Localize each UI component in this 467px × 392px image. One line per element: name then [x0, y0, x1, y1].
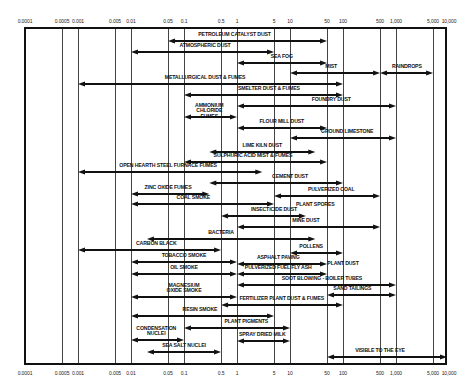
bar-label: ASPHALT PAVING	[257, 255, 300, 261]
bar-label: RESIN SMOKE	[183, 307, 218, 313]
range-arrow	[274, 193, 380, 198]
bar-label: SPRAY DRIED MILK	[239, 332, 286, 338]
bar-label: SMELTER DUST & FUMES	[238, 86, 300, 92]
particle-size-chart: 0.00010.00050.0010.0050.010.050.10.51510…	[0, 0, 467, 392]
range-arrow	[237, 282, 396, 287]
bar-label: OIL SMOKE	[170, 265, 198, 271]
bar-label: CARBON BLACK	[136, 241, 177, 247]
bar-label: PETROLEUM CATALYST DUST	[198, 32, 271, 38]
range-arrow	[237, 224, 380, 229]
range-arrow	[209, 180, 343, 185]
bar-label: AMMONIUM CHLORIDE FUMES	[188, 103, 230, 120]
bar-label: SEA SALT NUCLEI	[162, 343, 206, 349]
range-arrow	[237, 60, 327, 65]
bar-label: ZINC OXIDE FUMES	[145, 185, 192, 191]
range-arrow	[184, 325, 290, 330]
range-arrow	[131, 294, 237, 299]
range-arrow	[290, 70, 380, 75]
range-arrow	[78, 81, 343, 86]
bar-label: GROUND LIMESTONE	[321, 129, 373, 135]
range-arrow	[237, 125, 327, 130]
bar-label: LIME KILN DUST	[243, 143, 282, 149]
bar-label: RAINDROPS	[392, 64, 422, 70]
bar-label: METALLURGICAL DUST & FUMES	[165, 75, 246, 81]
bar-label: PULVERIZED FUEL FLY ASH	[245, 265, 312, 271]
bar-label: FLOUR MILL DUST	[259, 119, 304, 125]
range-arrow	[221, 302, 343, 307]
bar-label: POLLENS	[299, 244, 322, 250]
range-arrow	[131, 271, 237, 276]
bar-label: TOBACCO SMOKE	[162, 253, 207, 259]
bar-label: CEMENT DUST	[272, 174, 308, 180]
bar-label: SULPHURIC ACID MIST & FUMES	[214, 153, 293, 159]
bar-label: OPEN HEARTH STEEL FURNACE FUMES	[119, 163, 217, 169]
bar-label: PLANT DUST	[327, 261, 358, 267]
bar-label: PLANT PIGMENTS	[224, 319, 268, 325]
bar-label: MINE DUST	[292, 218, 319, 224]
range-arrow	[290, 135, 396, 140]
bar-label: MAGNESIUM OXIDE SMOKE	[163, 283, 205, 294]
range-arrow	[380, 70, 433, 75]
bar-label: VISIBLE TO THE EYE	[355, 348, 405, 354]
bar-label: FOUNDRY DUST	[312, 97, 351, 103]
bar-label: SAND TAILINGS	[333, 286, 371, 292]
bar-label: ATMOSPHERIC DUST	[180, 43, 231, 49]
range-arrow	[237, 338, 290, 343]
bar-label: MIST	[325, 64, 337, 70]
range-arrow	[131, 49, 274, 54]
bar-label: PLANT SPORES	[296, 202, 335, 208]
range-arrows	[0, 0, 467, 392]
range-arrow	[237, 103, 396, 108]
range-arrow	[78, 169, 262, 174]
bar-label: COAL SMOKE	[177, 195, 211, 201]
bar-label: SEA FOG	[271, 54, 293, 60]
bar-label: INSECTICIDE DUST	[251, 207, 297, 213]
range-arrow	[327, 354, 447, 359]
bar-label: SOOT BLOWING - BOILER TUBES	[282, 276, 362, 282]
bar-label: CONDENSATION NUCLEI	[135, 326, 177, 337]
bar-label: PULVERIZED COAL	[308, 187, 354, 193]
bar-label: FERTILIZER PLANT DUST & FUMES	[239, 296, 324, 302]
range-arrow	[147, 349, 221, 354]
bar-label: BACTERIA	[208, 230, 234, 236]
range-arrow	[327, 292, 396, 297]
